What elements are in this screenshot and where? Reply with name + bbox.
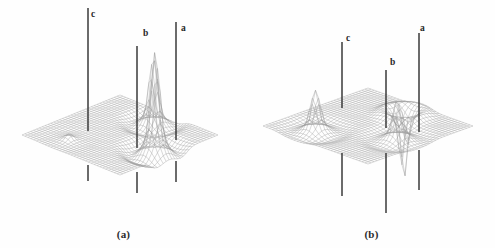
peak-label-a-b: a: [420, 24, 425, 34]
panel-b: c b a (b): [248, 0, 495, 248]
peak-label-a-a: a: [181, 24, 186, 34]
panel-caption-b: (b): [248, 228, 495, 240]
peak-label-b-b: b: [390, 58, 395, 68]
figure-container: c b a (a) c b a (b): [0, 0, 495, 248]
peak-label-b-a: b: [143, 29, 148, 39]
mesh-wireframe: [22, 53, 218, 175]
surface-plot-a: [0, 0, 247, 248]
peak-label-c-a: c: [91, 10, 95, 20]
panel-a: c b a (a): [0, 0, 247, 248]
mesh-wireframe: [263, 88, 473, 176]
surface-plot-b: [248, 0, 495, 248]
panel-caption-a: (a): [0, 228, 247, 240]
peak-label-c-b: c: [346, 34, 350, 44]
